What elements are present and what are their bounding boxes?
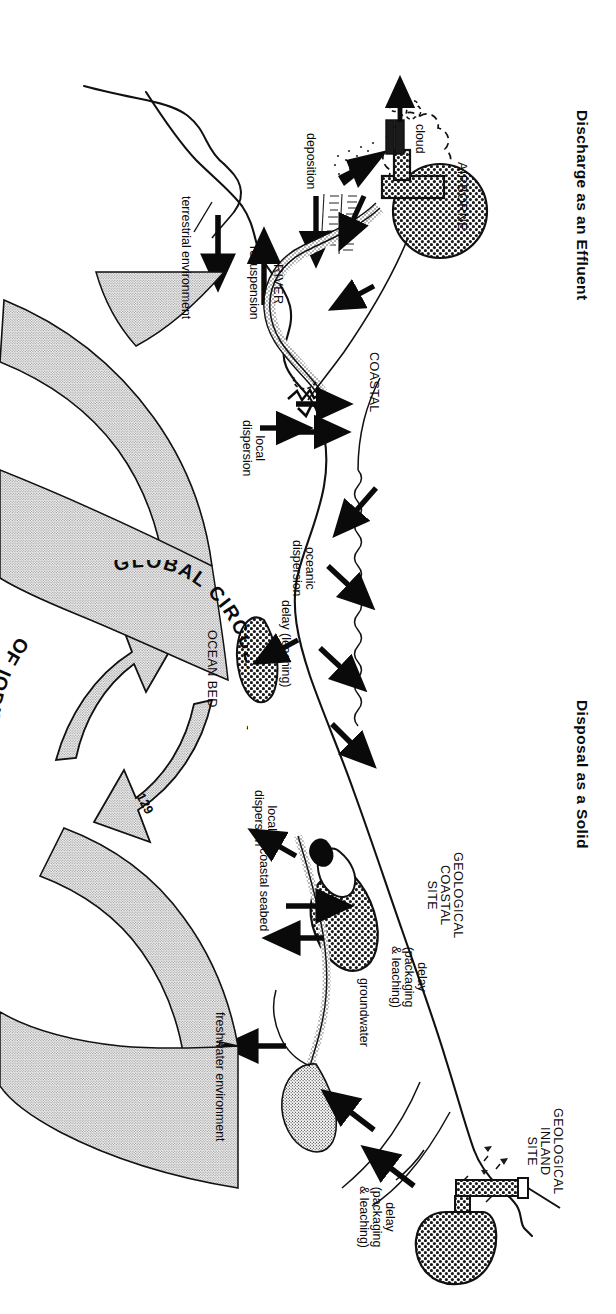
label-river: RIVER — [271, 264, 284, 305]
label-resuspension: resuspension — [247, 246, 260, 320]
label-delay-leaching: delay (leaching) — [279, 600, 292, 687]
label-geological-coastal-site: GEOLOGICAL COASTAL SITE — [425, 852, 464, 939]
terrestrial-environment-mass — [96, 272, 224, 346]
label-local-dispersion-left: local dispersion — [240, 420, 266, 476]
label-oceanic-dispersion: oceanic dispersion — [290, 540, 316, 596]
label-freshwater-environment: freshwater environment — [213, 1012, 226, 1141]
svg-text:OF IODINE: OF IODINE — [0, 634, 34, 743]
label-coastal-seabed: coastal seabed — [257, 848, 270, 931]
global-circulation-line2: OF IODINE — [0, 634, 34, 743]
svg-text:GLOBAL CIRCULATION: GLOBAL CIRCULATION — [111, 560, 248, 735]
oceanic-dispersion-arrows — [320, 488, 376, 752]
label-airborne: AIRBORNE — [455, 162, 468, 231]
sea-surface-wavy-line — [355, 378, 381, 726]
label-terrestrial-environment: terrestrial environment — [179, 196, 192, 319]
label-groundwater: groundwater — [357, 978, 370, 1047]
diagram-canvas: Discharge as an Effluent Disposal as a S… — [0, 0, 616, 1314]
global-circulation-caption: GLOBAL CIRCULATION OF IODINE 129 — [0, 560, 248, 900]
coastal-pipeline-arrow — [348, 286, 374, 300]
title-discharge-as-effluent: Discharge as an Effluent — [574, 110, 590, 300]
iodine-isotope-number: 129 — [133, 790, 156, 816]
figure-page: Discharge as an Effluent Disposal as a S… — [0, 0, 616, 1314]
label-delay-packaging-inland: delay (packaging & leaching) — [357, 1186, 396, 1248]
deposition-arrow — [338, 150, 388, 188]
label-local-dispersion-right: local dispersion — [252, 790, 278, 846]
label-deposition: deposition — [304, 133, 317, 190]
label-cloud: cloud — [413, 124, 426, 154]
label-delay-packaging-coastal: delay (packaging & leaching) — [389, 946, 428, 1008]
title-disposal-as-solid: Disposal as a Solid — [574, 700, 590, 849]
coastal-discharge-pipeline — [308, 238, 408, 400]
label-coastal: COASTAL — [367, 352, 380, 413]
global-circulation-line1: GLOBAL CIRCULATION — [111, 560, 248, 735]
label-geological-inland-site: GEOLOGICAL INLAND SITE — [525, 1108, 564, 1195]
